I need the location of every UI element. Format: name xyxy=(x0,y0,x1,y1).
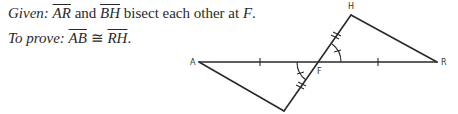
geometry-diagram: A R H F xyxy=(0,0,458,114)
angle-arc-afb xyxy=(297,62,306,80)
segment-bh-line xyxy=(284,15,351,111)
label-r: R xyxy=(441,58,447,67)
label-a: A xyxy=(190,58,196,67)
label-f: F xyxy=(317,67,322,76)
segment-ab-line xyxy=(199,62,284,111)
label-h: H xyxy=(348,2,354,11)
segment-hr-line xyxy=(351,15,437,62)
angle-arc-hfr xyxy=(332,44,341,62)
